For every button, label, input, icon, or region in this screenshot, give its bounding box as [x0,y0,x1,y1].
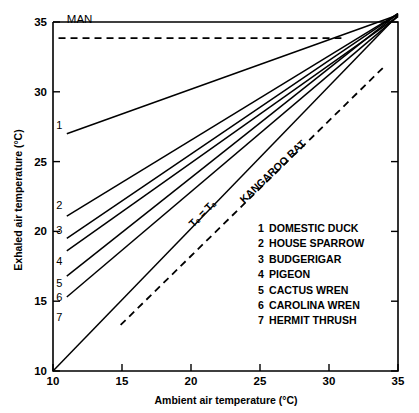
legend-entry-number: 2 [258,237,264,249]
legend-entry-5: 5CACTUS WREN [258,284,348,296]
legend-entry-label: HOUSE SPARROW [269,237,364,249]
legend-entry-number: 7 [258,314,264,326]
x-tick-label: 30 [323,375,336,387]
series-number-6: 6 [56,291,62,303]
y-tick-label: 20 [34,225,47,237]
legend-entry-label: PIGEON [269,268,310,280]
series-number-5: 5 [56,277,62,289]
y-tick-label: 15 [34,295,47,307]
x-tick-label: 10 [47,375,60,387]
legend-entry-label: BUDGERIGAR [269,253,342,265]
legend-entry-number: 3 [258,253,264,265]
x-tick-label: 25 [254,375,267,387]
legend-entry-6: 6CAROLINA WREN [258,299,360,311]
y-tick-label: 10 [34,365,47,377]
legend-entry-1: 1DOMESTIC DUCK [258,222,359,234]
legend-entry-number: 6 [258,299,264,311]
y-tick-label: 25 [34,156,47,168]
x-axis-title: Ambient air temperature (°C) [154,394,297,406]
legend-entry-label: HERMIT THRUSH [269,314,357,326]
legend-entry-number: 1 [258,222,264,234]
legend-entry-2: 2HOUSE SPARROW [258,237,364,249]
chart-figure: 101520253035101520253035 MANKANGAROO RAT… [0,0,419,413]
y-axis-title: Exhaled air temperature (°C) [12,129,24,270]
x-tick-label: 20 [185,375,198,387]
series-number-3: 3 [56,224,62,236]
y-tick-label: 35 [34,16,47,28]
legend-entry-label: CAROLINA WREN [269,299,360,311]
series-number-7: 7 [56,311,62,323]
x-tick-label: 35 [392,375,405,387]
exhaled-vs-ambient-temperature-chart: 101520253035101520253035 MANKANGAROO RAT… [0,0,419,413]
series-number-1: 1 [56,119,62,131]
x-tick-label: 15 [116,375,129,387]
series-number-4: 4 [56,255,62,267]
y-tick-label: 30 [34,86,47,98]
legend-entry-number: 5 [258,284,264,296]
legend-entry-label: DOMESTIC DUCK [269,222,359,234]
series-number-2: 2 [56,199,62,211]
reference-label-man: MAN [67,13,93,25]
legend-entry-number: 4 [258,268,264,280]
legend-entry-3: 3BUDGERIGAR [258,253,342,265]
legend-entry-label: CACTUS WREN [269,284,348,296]
legend-entry-7: 7HERMIT THRUSH [258,314,357,326]
